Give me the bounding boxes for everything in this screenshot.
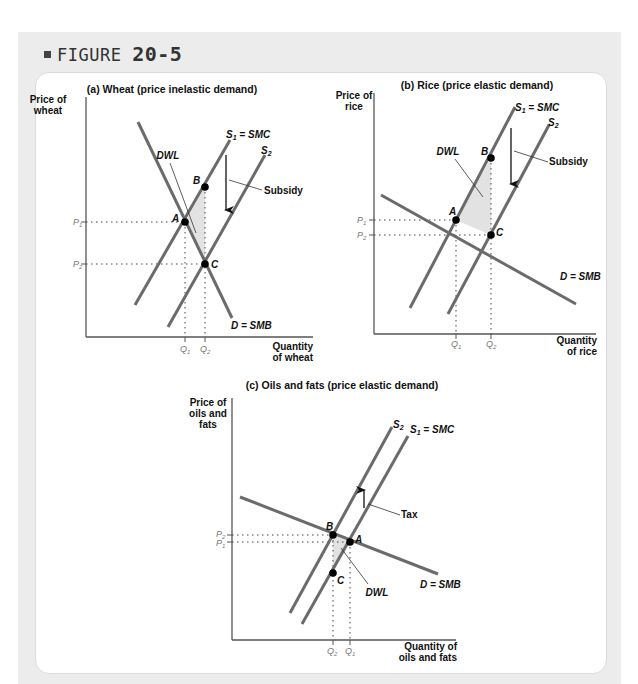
point-c <box>487 231 495 239</box>
s2-label: S2 <box>393 419 404 431</box>
point-b <box>201 183 209 191</box>
p1-label: P1 <box>357 215 366 226</box>
s1-label: S1 = SMC <box>410 424 455 436</box>
s2-label: S2 <box>261 145 272 157</box>
dwl-region <box>456 158 491 235</box>
point-a <box>452 216 460 224</box>
leader-line <box>368 504 400 515</box>
chart-title: (b) Rice (price elastic demand) <box>401 79 553 91</box>
supply-s1-curve <box>302 436 408 624</box>
point-b <box>487 154 495 162</box>
point-c-label: C <box>337 575 345 586</box>
chart-wheat: (a) Wheat (price inelastic demand) Price… <box>30 83 314 363</box>
demand-label: D = SMB <box>420 579 461 590</box>
chart-rice: (b) Rice (price elastic demand) Price of… <box>336 79 601 357</box>
q2-label: Q2 <box>486 339 497 350</box>
demand-label: D = SMB <box>560 271 601 282</box>
y-axis-label: rice <box>345 101 363 112</box>
y-axis-label: fats <box>199 419 217 430</box>
point-a <box>346 538 354 546</box>
q1-label: Q1 <box>345 646 355 657</box>
p2-label: P2 <box>357 230 367 241</box>
chart-oils-and-fats: (c) Oils and fats (price elastic demand)… <box>189 379 461 663</box>
point-c <box>329 569 337 577</box>
supply-s1-curve <box>410 107 515 308</box>
point-a <box>181 218 189 226</box>
dwl-label: DWL <box>366 587 389 598</box>
point-a-label: A <box>448 206 456 217</box>
q2-label: Q2 <box>327 646 338 657</box>
s2-label: S2 <box>548 117 559 129</box>
point-c <box>201 260 209 268</box>
q1-label: Q1 <box>180 344 190 355</box>
x-axis-label: Quantity <box>272 341 313 352</box>
y-axis-label: wheat <box>33 105 63 116</box>
x-axis-label: of rice <box>567 346 597 357</box>
y-axis-label: Price of <box>336 90 373 101</box>
x-axis-label: Quantity of <box>404 641 457 652</box>
point-c-label: C <box>211 259 219 270</box>
dwl-label: DWL <box>157 150 180 161</box>
chart-title: (c) Oils and fats (price elastic demand) <box>246 379 439 391</box>
y-axis-label: Price of <box>30 94 67 105</box>
subsidy-label: Subsidy <box>264 185 303 196</box>
x-axis-label: Quantity <box>556 335 597 346</box>
s1-label: S1 = SMC <box>226 129 271 141</box>
point-b <box>329 531 337 539</box>
point-c-label: C <box>496 227 504 238</box>
chart-title: (a) Wheat (price inelastic demand) <box>87 83 257 95</box>
point-b-label: B <box>481 146 488 157</box>
p1-label: P1 <box>73 217 82 228</box>
dwl-label: DWL <box>437 146 460 157</box>
tax-label: Tax <box>401 509 418 520</box>
y-axis-label: oils and <box>189 408 227 419</box>
point-a-label: A <box>171 213 179 224</box>
point-b-label: B <box>193 175 200 186</box>
p2-label: P2 <box>73 259 83 270</box>
x-axis-label: of wheat <box>272 352 313 363</box>
q2-label: Q2 <box>200 344 211 355</box>
point-a-label: A <box>354 534 362 545</box>
leader-line <box>341 548 368 584</box>
x-axis-label: oils and fats <box>399 652 458 663</box>
demand-label: D = SMB <box>231 320 272 331</box>
subsidy-label: Subsidy <box>549 156 588 167</box>
figure-svg: (a) Wheat (price inelastic demand) Price… <box>0 0 638 684</box>
q1-label: Q1 <box>451 339 461 350</box>
y-axis-label: Price of <box>190 397 227 408</box>
s1-label: S1 = SMC <box>515 102 560 114</box>
supply-s2-curve <box>168 155 265 327</box>
point-b-label: B <box>326 521 333 532</box>
